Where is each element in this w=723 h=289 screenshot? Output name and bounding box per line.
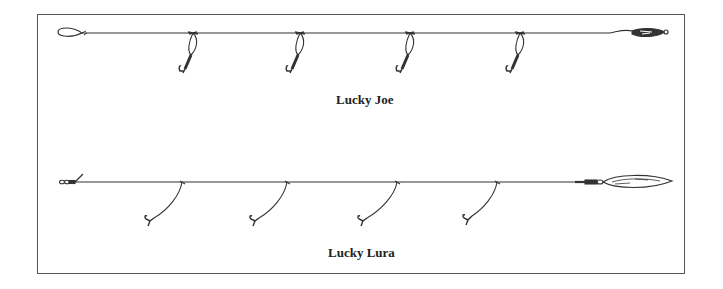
fly-hook-icon	[396, 32, 415, 73]
rig-label-lucky-joe: Lucky Joe	[336, 92, 393, 108]
lucky-joe-rig	[58, 28, 668, 73]
fly-hook-icon	[286, 32, 305, 73]
hook-icon	[358, 181, 400, 226]
fly-hook-icon	[506, 32, 525, 73]
lucky-lura-rig	[60, 174, 673, 226]
sinker-icon	[610, 28, 668, 36]
hook-icon	[145, 181, 185, 226]
fly-hook-icon	[179, 32, 198, 73]
loop-icon	[58, 28, 87, 36]
hook-icon	[463, 181, 500, 225]
spoon-lure-icon	[575, 175, 672, 187]
hook-icon	[250, 181, 290, 226]
rig-label-lucky-lura: Lucky Lura	[328, 245, 395, 261]
